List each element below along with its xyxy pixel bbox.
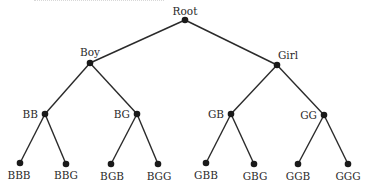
edge-gg-ggb [298,115,324,164]
node-label-bg: BG [114,108,130,120]
edge-root-boy [90,20,185,63]
node-bbb [17,160,24,167]
node-label-ggb: GGB [286,170,311,182]
node-label-girl: Girl [278,49,299,61]
node-bgg [155,161,162,168]
node-gbb [203,160,210,167]
node-gb [228,111,235,118]
edge-root-girl [185,20,277,65]
node-label-gbg: GBG [243,170,268,182]
node-girl [274,62,281,69]
tree-nodes [17,17,352,168]
edge-bb-bbg [45,114,66,164]
edge-bg-bgg [137,114,158,164]
node-label-gbb: GBB [194,169,218,181]
edge-girl-gb [231,65,277,114]
edge-gb-gbb [206,114,231,163]
tree-labels: RootBoyGirlBBBGGBGGBBBBBGBGBBGGGBBGBGGGB… [7,5,360,182]
node-label-bgg: BGG [147,170,172,182]
edge-gb-gbg [231,114,254,164]
node-gg [321,112,328,119]
node-boy [87,60,94,67]
edge-boy-bb [45,63,90,114]
node-gbg [251,161,258,168]
node-label-bgb: BGB [100,170,124,182]
node-ggg [345,161,352,168]
node-bg [134,111,141,118]
edge-girl-gg [277,65,324,115]
node-label-boy: Boy [80,46,100,58]
node-label-ggg: GGG [335,170,360,182]
edge-bg-bgb [111,114,137,164]
node-label-gg: GG [300,109,317,121]
node-root [182,17,189,24]
node-bbg [63,161,70,168]
node-label-bbb: BBB [7,169,30,181]
edge-gg-ggg [324,115,348,164]
tree-diagram: RootBoyGirlBBBGGBGGBBBBBGBGBBGGGBBGBGGGB… [0,0,368,186]
edge-bb-bbb [20,114,45,163]
node-bgb [108,161,115,168]
node-label-root: Root [173,5,199,17]
node-label-bb: BB [23,108,39,120]
node-ggb [295,161,302,168]
node-label-gb: GB [208,108,224,120]
edge-boy-bg [90,63,137,114]
node-label-bbg: BBG [54,169,78,181]
node-bb [42,111,49,118]
tree-edges [20,20,348,164]
